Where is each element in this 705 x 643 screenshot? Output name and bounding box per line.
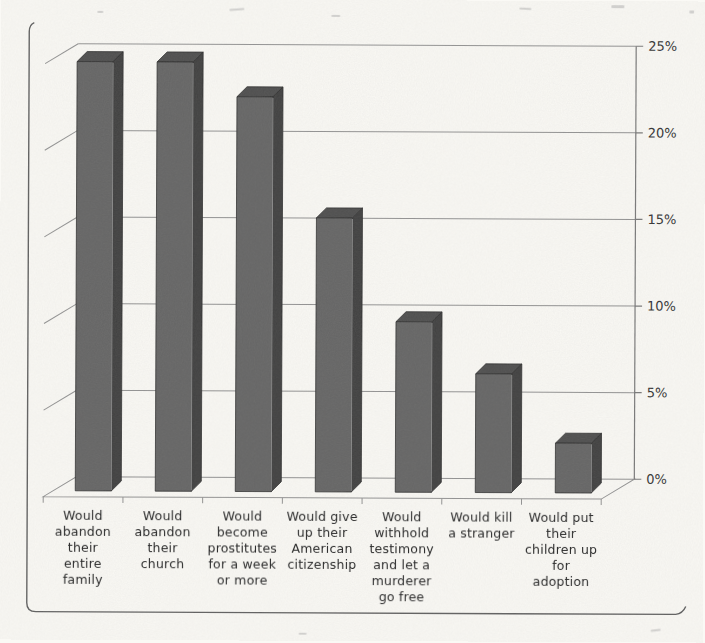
chart-canvas: 0%5%10%15%20%25%	[0, 0, 705, 643]
scanned-chart-figure: 0%5%10%15%20%25% Would abandon their ent…	[0, 0, 705, 643]
paper-grain-overlay	[0, 0, 705, 643]
